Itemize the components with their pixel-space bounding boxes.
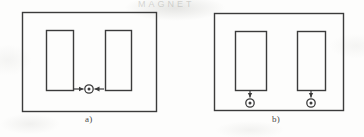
figure-b-right-pole-block — [298, 32, 326, 91]
figure-a-right-pole-block — [106, 31, 132, 91]
figure-a-caption: a) — [85, 114, 92, 124]
figure-b-caption: b) — [272, 114, 280, 124]
figure-page: MAGNET — [0, 0, 364, 137]
figure-a-drawing — [0, 0, 364, 137]
figure-b-left-pole-block — [236, 32, 267, 91]
figure-b-current-out-of-page-marker-left — [246, 99, 254, 107]
figure-b-outer-frame — [215, 14, 344, 111]
figure-a-outer-frame — [23, 13, 157, 112]
figure-a-current-out-of-page-marker — [85, 85, 93, 93]
figure-b-current-out-of-page-marker-right — [307, 99, 315, 107]
figure-a-left-pole-block — [47, 31, 74, 91]
figure-b-group — [215, 14, 344, 111]
figure-a-group — [23, 13, 157, 112]
